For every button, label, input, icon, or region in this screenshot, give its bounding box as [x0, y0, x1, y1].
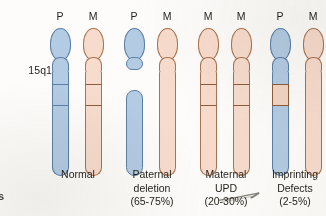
chromosome-paternal-imprint-defect — [268, 28, 292, 176]
scan-edge-glyph: s — [0, 190, 4, 202]
chromosome-maternal — [155, 28, 179, 176]
chromosome-neck — [85, 57, 102, 72]
chromosome-band-15q13 — [200, 84, 217, 106]
parent-letter-m: M — [204, 10, 213, 22]
parent-letter-p: P — [276, 10, 283, 22]
chromosome-paternal-deleted — [122, 28, 146, 176]
chromosome-neck — [200, 57, 217, 72]
chromosome-neck — [233, 57, 250, 72]
caption-line: (2-5%) — [250, 195, 326, 209]
chromosome-maternal — [229, 28, 253, 176]
chromosome-column-maternal-2: M — [229, 10, 253, 176]
chromosome-column-maternal: M — [301, 10, 325, 176]
chromosome-neck — [272, 57, 289, 72]
chromosome-pair-paternal-deletion: P M — [122, 10, 179, 176]
chromosome-maternal — [301, 28, 325, 176]
chromosome-long-arm — [126, 90, 143, 176]
chromosome-column-paternal: P — [122, 10, 146, 176]
chromosome-pair-maternal-upd: M M — [196, 10, 253, 176]
chromosome-imprinting-figure: 15q13 P M — [0, 0, 326, 216]
chromosome-neck — [52, 57, 69, 72]
chromosome-band-15q13 — [233, 84, 250, 106]
chromosome-column-paternal: P — [48, 10, 72, 176]
chromosome-neck — [126, 57, 143, 70]
parent-letter-p: P — [56, 10, 63, 22]
caption-imprinting-defects: Imprinting Defects (2-5%) — [250, 168, 326, 209]
caption-line: Imprinting — [250, 168, 326, 182]
chromosome-band-15q13 — [52, 84, 69, 106]
chromosome-long-arm — [305, 71, 322, 176]
chromosome-pair-normal: P M — [48, 10, 105, 176]
chromosome-column-maternal: M — [155, 10, 179, 176]
parent-letter-p: P — [130, 10, 137, 22]
chromosome-band-15q13-maternal-imprint — [272, 84, 289, 106]
chromosome-paternal — [48, 28, 72, 176]
parent-letter-m: M — [309, 10, 318, 22]
parent-letter-m: M — [89, 10, 98, 22]
chromosome-column-maternal-1: M — [196, 10, 220, 176]
caption-line: Defects — [250, 182, 326, 196]
chromosome-column-paternal: P — [268, 10, 292, 176]
chromosome-long-arm — [159, 71, 176, 176]
chromosome-band-15q13 — [85, 84, 102, 106]
chromosome-maternal — [81, 28, 105, 176]
parent-letter-m: M — [163, 10, 172, 22]
chromosome-neck — [305, 57, 322, 72]
chromosome-column-maternal: M — [81, 10, 105, 176]
chromosome-neck — [159, 57, 176, 72]
chromosome-pair-imprinting-defects: P M — [268, 10, 325, 176]
chromosome-maternal — [196, 28, 220, 176]
parent-letter-m: M — [237, 10, 246, 22]
